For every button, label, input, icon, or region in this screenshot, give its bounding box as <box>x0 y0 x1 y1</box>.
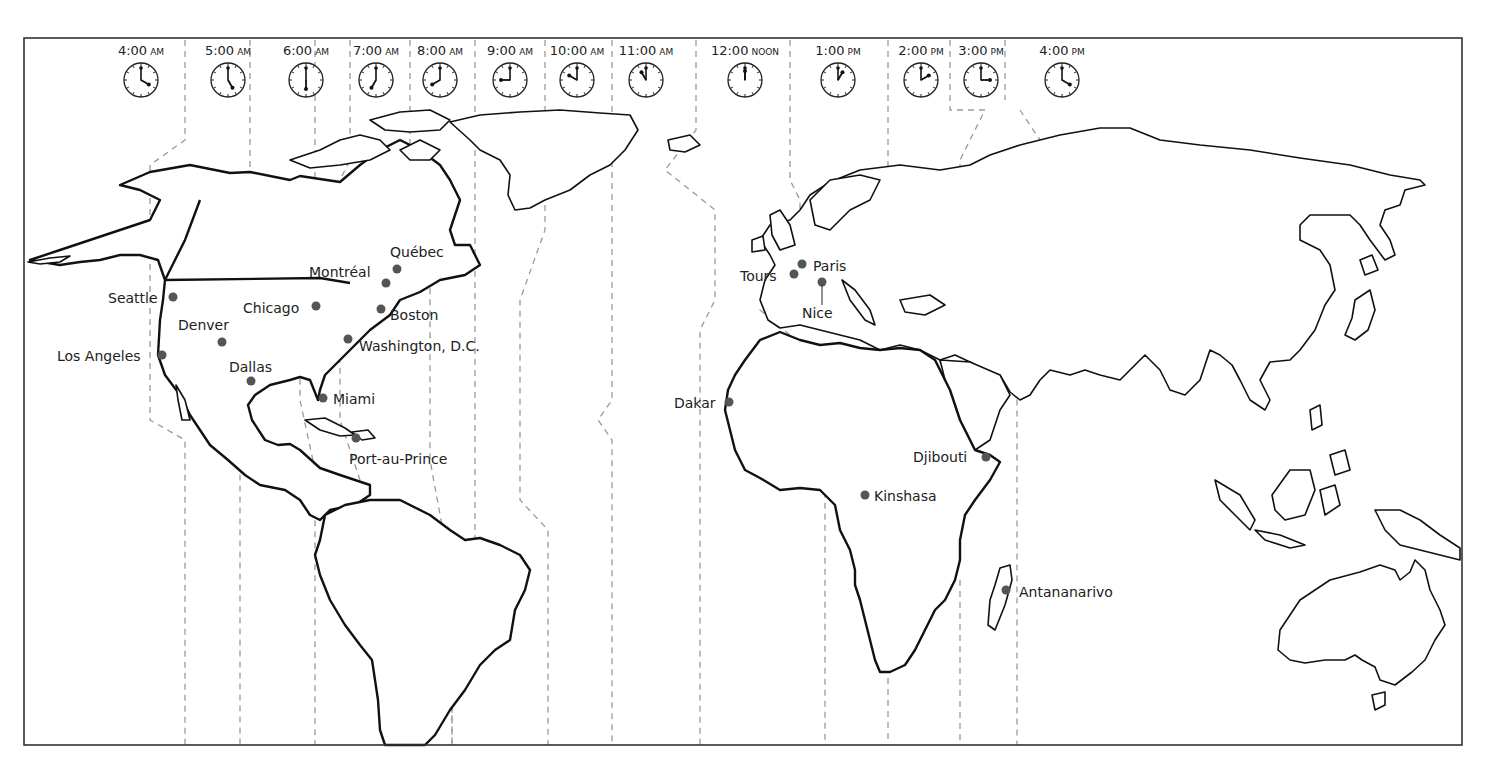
clock-time-label: 7:00AM <box>353 43 399 58</box>
clock-time-label: 9:00AM <box>487 43 533 58</box>
clock-time-label: 3:00PM <box>958 43 1003 58</box>
clock-2: 6:00AM <box>283 43 329 97</box>
city-label: Tours <box>739 268 777 284</box>
city-dot-icon <box>377 305 386 314</box>
australia <box>1278 560 1445 685</box>
city-washington-d-c-: Washington, D.C. <box>344 335 480 355</box>
clock-0: 4:00AM <box>118 43 164 97</box>
city-label: Québec <box>390 244 444 260</box>
clock-7: 11:00AM <box>619 43 673 97</box>
city-dot-icon <box>725 398 734 407</box>
clock-time-label: 10:00AM <box>550 43 604 58</box>
city-label: Boston <box>390 307 438 323</box>
city-dot-icon <box>344 335 353 344</box>
clock-6: 10:00AM <box>550 43 604 97</box>
city-label: Washington, D.C. <box>359 338 480 354</box>
clock-time-label: 11:00AM <box>619 43 673 58</box>
city-label: Los Angeles <box>57 348 141 364</box>
city-dot-icon <box>158 351 167 360</box>
city-label: Antananarivo <box>1019 584 1113 600</box>
city-dot-icon <box>1002 586 1011 595</box>
city-label: Port-au-Prince <box>349 451 447 467</box>
city-dot-icon <box>382 279 391 288</box>
clock-4: 8:00AM <box>417 43 463 97</box>
city-label: Montréal <box>309 264 371 280</box>
clock-time-label: 5:00AM <box>205 43 251 58</box>
city-dot-icon <box>393 265 402 274</box>
city-dot-icon <box>218 338 227 347</box>
continents <box>28 110 1460 745</box>
clock-time-label: 1:00PM <box>815 43 860 58</box>
city-dot-icon <box>312 302 321 311</box>
city-label: Chicago <box>243 300 299 316</box>
city-dot-icon <box>798 260 807 269</box>
city-label: Dallas <box>229 359 272 375</box>
clock-1: 5:00AM <box>205 43 251 97</box>
south-america <box>315 500 530 745</box>
city-antananarivo: Antananarivo <box>1002 584 1113 600</box>
city-label: Djibouti <box>913 449 967 465</box>
city-dot-icon <box>790 270 799 279</box>
city-dot-icon <box>169 293 178 302</box>
city-label: Nice <box>802 305 833 321</box>
city-dot-icon <box>247 377 256 386</box>
clock-time-label: 12:00NOON <box>711 43 779 58</box>
city-dot-icon <box>861 491 870 500</box>
world-time-zone-map: 4:00AM5:00AM6:00AM7:00AM8:00AM9:00AM10:0… <box>0 0 1496 777</box>
clock-10: 2:00PM <box>898 43 943 97</box>
city-label: Paris <box>813 258 846 274</box>
clock-11: 3:00PM <box>958 43 1003 97</box>
city-dot-icon <box>982 453 991 462</box>
city-label: Denver <box>178 317 229 333</box>
city-label: Kinshasa <box>874 488 937 504</box>
city-dot-icon <box>319 394 328 403</box>
city-label: Seattle <box>108 290 158 306</box>
greenland <box>450 110 638 210</box>
clock-3: 7:00AM <box>353 43 399 97</box>
clock-12: 4:00PM <box>1039 43 1084 97</box>
clock-8: 12:00NOON <box>711 43 779 97</box>
city-dot-icon <box>352 434 361 443</box>
clock-5: 9:00AM <box>487 43 533 97</box>
clock-time-label: 2:00PM <box>898 43 943 58</box>
clock-time-label: 8:00AM <box>417 43 463 58</box>
city-miami: Miami <box>319 391 376 407</box>
city-label: Miami <box>333 391 375 407</box>
clock-row: 4:00AM5:00AM6:00AM7:00AM8:00AM9:00AM10:0… <box>118 43 1085 97</box>
clock-time-label: 4:00PM <box>1039 43 1084 58</box>
clock-time-label: 4:00AM <box>118 43 164 58</box>
city-label: Dakar <box>674 395 716 411</box>
clock-9: 1:00PM <box>815 43 860 97</box>
clock-time-label: 6:00AM <box>283 43 329 58</box>
